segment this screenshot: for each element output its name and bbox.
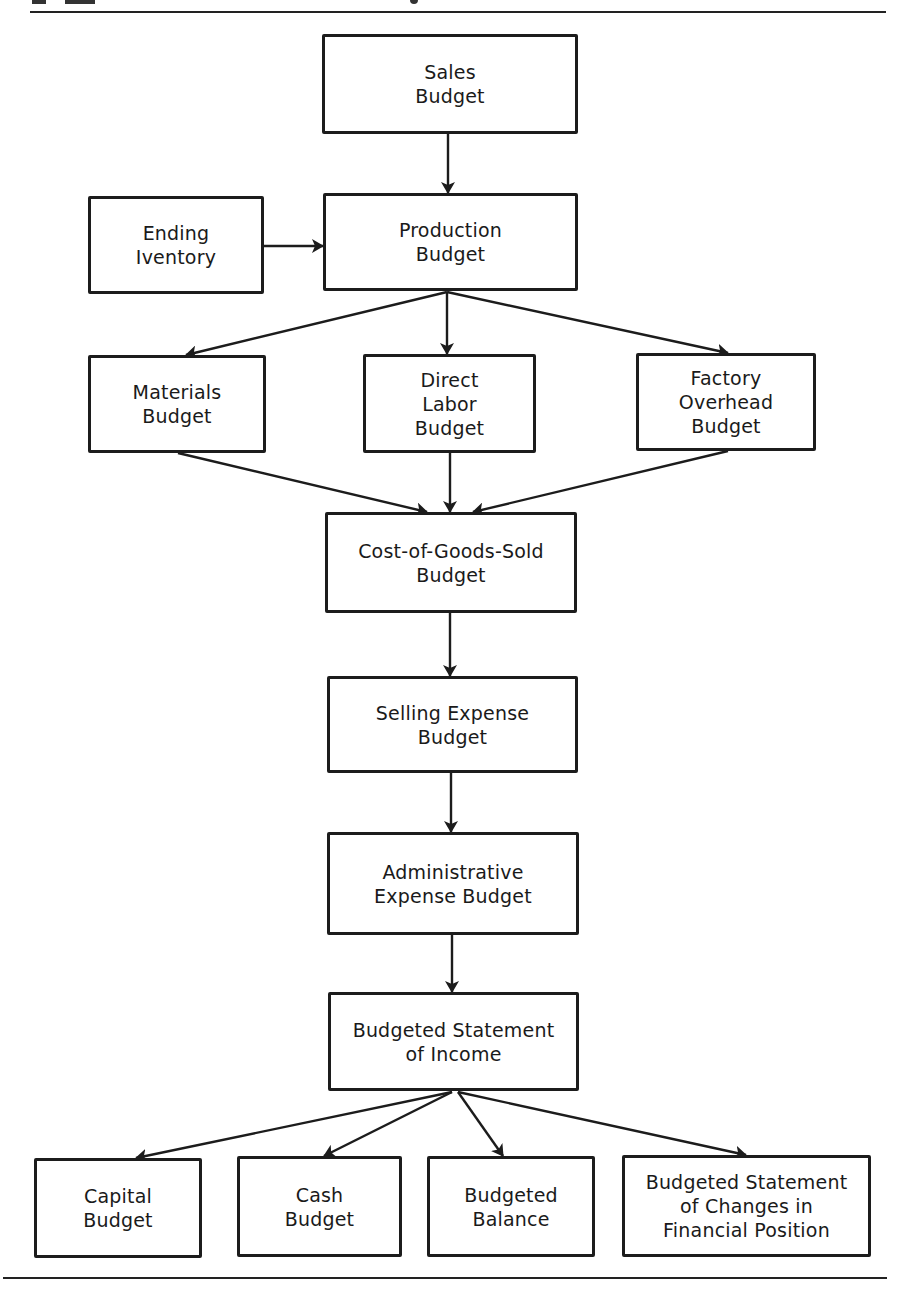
node-label-line: Budget: [418, 725, 488, 749]
node-label-line: Balance: [472, 1207, 549, 1231]
node-label-line: Cost-of-Goods-Sold: [358, 539, 544, 563]
node-label-line: Budget: [142, 404, 212, 428]
node-label-line: Budgeted Statement: [646, 1170, 848, 1194]
node-selling-expense: Selling ExpenseBudget: [327, 676, 578, 773]
node-materials: MaterialsBudget: [88, 355, 266, 453]
node-label-line: Selling Expense: [376, 701, 529, 725]
node-label-line: Direct: [420, 368, 478, 392]
node-label-line: Labor: [422, 392, 477, 416]
arrow-income-statement-to-cash: [324, 1092, 452, 1156]
node-label-line: Administrative: [382, 860, 523, 884]
node-label-line: Budget: [415, 416, 485, 440]
arrow-production-to-materials: [186, 292, 447, 355]
arrow-materials-to-cogs: [178, 453, 427, 512]
node-label-line: Ending: [143, 221, 210, 245]
arrow-income-statement-to-changes-fin-pos: [458, 1092, 746, 1155]
node-label-line: of Changes in: [680, 1194, 813, 1218]
node-admin-expense: AdministrativeExpense Budget: [327, 832, 579, 935]
header-fragment: [65, 0, 95, 4]
node-label-line: Cash: [296, 1183, 344, 1207]
node-label-line: Capital: [84, 1184, 152, 1208]
node-sales: SalesBudget: [322, 34, 578, 134]
node-label-line: Expense Budget: [374, 884, 532, 908]
node-label-line: Sales: [424, 60, 476, 84]
header-fragment: [410, 0, 418, 4]
node-production: ProductionBudget: [323, 193, 578, 291]
node-balance: BudgetedBalance: [427, 1156, 595, 1257]
node-label-line: Financial Position: [663, 1218, 830, 1242]
node-label-line: of Income: [405, 1042, 501, 1066]
node-label-line: Budget: [691, 414, 761, 438]
node-label-line: Budgeted: [464, 1183, 558, 1207]
node-capital: CapitalBudget: [34, 1158, 202, 1258]
node-label-line: Materials: [133, 380, 222, 404]
node-label-line: Budget: [416, 242, 486, 266]
node-cogs: Cost-of-Goods-SoldBudget: [325, 512, 577, 613]
node-label-line: Budget: [83, 1208, 153, 1232]
node-label-line: Budget: [285, 1207, 355, 1231]
arrow-production-to-factory-overhead: [447, 292, 728, 353]
node-factory-overhead: FactoryOverheadBudget: [636, 353, 816, 451]
node-label-line: Iventory: [136, 245, 216, 269]
node-cash: CashBudget: [237, 1156, 402, 1257]
top-rule: [30, 11, 886, 13]
node-label-line: Budgeted Statement: [353, 1018, 555, 1042]
node-direct-labor: DirectLaborBudget: [363, 354, 536, 453]
arrow-factory-overhead-to-cogs: [473, 451, 728, 512]
bottom-rule: [3, 1277, 887, 1279]
node-ending-inventory: EndingIventory: [88, 196, 264, 294]
node-label-line: Production: [399, 218, 502, 242]
arrow-income-statement-to-balance: [458, 1092, 503, 1156]
node-label-line: Budget: [416, 563, 486, 587]
arrow-income-statement-to-capital: [136, 1092, 452, 1158]
budget-flowchart: SalesBudgetEndingIventoryProductionBudge…: [0, 0, 901, 1299]
header-fragment: [32, 0, 46, 4]
node-label-line: Factory: [691, 366, 762, 390]
node-label-line: Budget: [415, 84, 485, 108]
node-label-line: Overhead: [679, 390, 773, 414]
node-income-statement: Budgeted Statementof Income: [328, 992, 579, 1091]
node-changes-fin-pos: Budgeted Statementof Changes inFinancial…: [622, 1155, 871, 1257]
